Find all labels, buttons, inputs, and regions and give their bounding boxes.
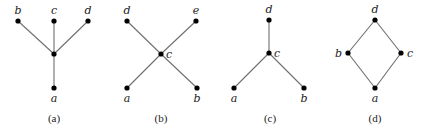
node-b [301,85,306,90]
diagram-d: dbca(d) [335,3,413,125]
node-c [398,50,403,55]
node-d [266,17,271,22]
caption-b: (b) [155,112,168,125]
hasse-diagrams-figure: bcda(a)decab(b)dcab(c)dbca(d) [0,0,428,133]
node-label-d: d [265,3,272,16]
diagram-a: bcda(a) [14,4,91,125]
edge-c-a [375,53,401,88]
caption-a: (a) [48,112,61,125]
diagram-canvas: bcda(a)decab(b)dcab(c)dbca(d) [0,0,428,133]
node-label-c: c [407,47,413,60]
node-e [193,18,198,23]
edge-b-center [18,21,54,54]
node-b [15,18,20,23]
edge-d-c [375,20,401,53]
node-label-c: c [51,4,57,17]
node-label-d: d [84,4,91,17]
edge-d-b [348,20,375,53]
node-a [51,85,56,90]
node-a [124,85,129,90]
diagram-c: dcab(c) [231,3,308,125]
node-c [51,18,56,23]
edge-c-a [127,54,161,88]
node-label-b: b [335,47,342,60]
node-label-a: a [372,92,379,105]
node-d [85,18,90,23]
diagram-b: decab(b) [123,4,200,125]
edge-c-a [234,53,269,88]
node-label-b: b [300,92,307,105]
node-label-a: a [51,92,58,105]
node-label-c: c [274,47,280,60]
node-b [194,85,199,90]
node-label-c: c [166,48,172,61]
node-a [231,85,236,90]
caption-d: (d) [369,112,382,125]
node-d [372,17,377,22]
node-label-b: b [14,4,21,17]
edge-d-c [127,21,161,54]
node-label-a: a [124,92,131,105]
node-d [124,18,129,23]
edge-b-a [348,53,375,88]
edge-d-center [54,21,88,54]
node-b [345,50,350,55]
node-c [158,51,163,56]
node-center [51,51,56,56]
node-label-e: e [193,4,200,17]
node-label-d: d [123,4,130,17]
node-label-b: b [193,92,200,105]
caption-c: (c) [264,112,277,125]
node-label-a: a [231,92,238,105]
node-c [266,50,271,55]
node-label-d: d [371,3,378,16]
node-a [372,85,377,90]
